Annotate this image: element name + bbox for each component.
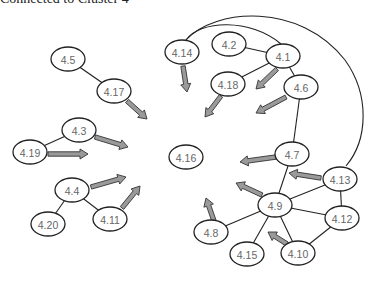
node-label: 4.12 (332, 213, 353, 225)
node-label: 4.3 (72, 125, 87, 137)
arrow-icon (268, 232, 288, 246)
node-label: 4.18 (218, 79, 239, 91)
node-4-5: 4.5 (51, 47, 85, 71)
arrow-icon (126, 99, 148, 119)
node-4-3: 4.3 (62, 118, 96, 142)
node-label: 4.15 (237, 249, 258, 261)
arrow-icon (48, 149, 88, 159)
node-4-11: 4.11 (93, 207, 127, 231)
node-4-9: 4.9 (258, 193, 292, 217)
arrow-icon (94, 135, 128, 150)
node-4-10: 4.10 (281, 241, 315, 265)
node-label: 4.4 (65, 185, 80, 197)
node-4-4: 4.4 (55, 178, 89, 202)
node-4-14: 4.14 (165, 40, 199, 64)
arrow-icon (256, 95, 287, 114)
arrow-icon (181, 66, 191, 92)
nodes: 4.54.174.34.194.44.204.114.144.24.14.184… (13, 32, 359, 266)
node-label: 4.8 (204, 227, 219, 239)
node-label: 4.6 (294, 82, 309, 94)
node-label: 4.20 (38, 219, 59, 231)
cluster-diagram: 4.54.174.34.194.44.204.114.144.24.14.184… (0, 0, 372, 284)
node-label: 4.7 (285, 149, 300, 161)
node-label: 4.14 (172, 47, 193, 59)
arrow-icon (240, 155, 276, 166)
node-label: 4.9 (268, 200, 283, 212)
node-label: 4.17 (104, 86, 125, 98)
node-4-16: 4.16 (169, 145, 203, 169)
node-4-7: 4.7 (275, 142, 309, 166)
node-4-18: 4.18 (211, 72, 245, 96)
node-label: 4.1 (276, 51, 291, 63)
node-label: 4.13 (330, 174, 351, 186)
node-4-20: 4.20 (31, 212, 65, 236)
node-4-12: 4.12 (325, 206, 359, 230)
arrow-icon (256, 67, 279, 89)
node-label: 4.5 (61, 54, 76, 66)
node-4-8: 4.8 (194, 220, 228, 244)
arrow-icon (205, 95, 223, 117)
node-label: 4.16 (176, 152, 197, 164)
node-label: 4.19 (20, 147, 41, 159)
arrow-icon (289, 169, 321, 180)
node-4-17: 4.17 (97, 79, 131, 103)
arrow-icon (204, 198, 216, 222)
node-4-6: 4.6 (284, 75, 318, 99)
node-label: 4.11 (100, 214, 120, 226)
node-4-2: 4.2 (212, 32, 246, 56)
node-label: 4.10 (288, 248, 309, 260)
curved-edges (186, 16, 363, 166)
node-4-15: 4.15 (230, 242, 264, 266)
arrow-icon (90, 174, 126, 189)
arrow-icon (120, 186, 140, 209)
node-label: 4.2 (222, 39, 237, 51)
node-4-13: 4.13 (323, 167, 357, 191)
node-4-1: 4.1 (266, 44, 300, 68)
node-4-19: 4.19 (13, 140, 47, 164)
arrow-icon (236, 182, 263, 197)
